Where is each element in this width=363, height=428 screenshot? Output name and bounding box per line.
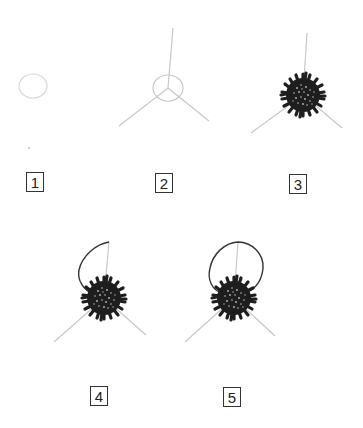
step-label-2: 2 bbox=[155, 173, 173, 193]
flower-head bbox=[212, 276, 256, 320]
diagram-canvas bbox=[0, 0, 363, 428]
step-4-figure bbox=[54, 242, 146, 342]
flower-head bbox=[82, 276, 126, 320]
step-2-figure bbox=[119, 28, 209, 126]
guide-lines bbox=[119, 28, 209, 126]
flower-head bbox=[281, 73, 325, 117]
oval-sketch bbox=[19, 74, 47, 98]
step-label-4: 4 bbox=[90, 386, 108, 406]
step-label-3: 3 bbox=[289, 174, 307, 194]
step-5-figure bbox=[185, 242, 275, 342]
speck bbox=[28, 147, 30, 149]
step-3-figure bbox=[251, 33, 342, 133]
step-label-1: 1 bbox=[26, 172, 44, 192]
step-1-figure bbox=[19, 74, 47, 149]
step-label-5: 5 bbox=[223, 387, 241, 407]
